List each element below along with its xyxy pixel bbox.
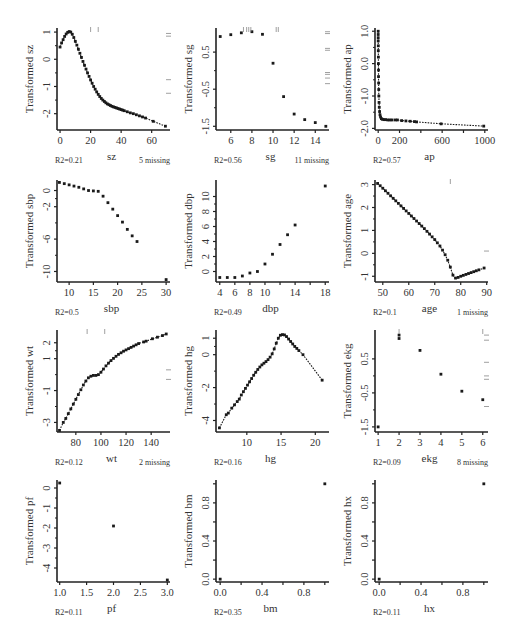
x-tick-label: 80 bbox=[455, 287, 466, 298]
data-point bbox=[166, 579, 169, 582]
data-point bbox=[249, 272, 252, 275]
y-tick-label: -1 bbox=[41, 504, 52, 513]
x-tick-label: 140 bbox=[143, 437, 159, 448]
y-tick-label: 10 bbox=[200, 191, 211, 202]
x-tick-label: 4 bbox=[438, 437, 444, 448]
data-point bbox=[58, 482, 61, 485]
x-tick-label: 1.5 bbox=[80, 587, 93, 598]
y-axis-label: Transformed dbp bbox=[182, 193, 194, 269]
data-point bbox=[294, 224, 297, 227]
x-tick-label: 600 bbox=[434, 135, 450, 146]
y-tick-label: -1.5 bbox=[359, 419, 370, 436]
panel-sg: 68101214-1.5-0.50.5Transformed sgsgR2=0.… bbox=[182, 27, 330, 165]
data-point bbox=[323, 482, 326, 485]
x-tick-label: 4 bbox=[217, 287, 223, 298]
data-point bbox=[482, 482, 485, 485]
panel-pf: 1.01.52.02.53.0-4-3-2-10Transformed pfpf… bbox=[23, 480, 174, 617]
x-tick-label: 2 bbox=[396, 437, 401, 448]
y-tick-label: 1 bbox=[359, 228, 370, 233]
data-point bbox=[121, 221, 124, 224]
data-point bbox=[102, 195, 105, 198]
y-tick-label: 1 bbox=[200, 336, 211, 341]
x-tick-label: 90 bbox=[481, 287, 492, 298]
data-point bbox=[112, 525, 115, 528]
y-tick-label: 1.0 bbox=[359, 25, 370, 38]
y-tick-label: -2 bbox=[200, 383, 211, 392]
x-tick-label: 10 bbox=[268, 135, 279, 146]
x-tick-label: 0.0 bbox=[214, 587, 227, 598]
x-tick-label: 14 bbox=[290, 287, 301, 298]
data-point bbox=[126, 228, 129, 231]
r2-annotation: R2=0.11 bbox=[55, 608, 83, 617]
r2-annotation: R2=0.12 bbox=[55, 458, 83, 467]
y-axis-label: Transformed bm bbox=[182, 494, 194, 568]
x-tick-label: 30 bbox=[161, 287, 172, 298]
x-tick-label: 0.4 bbox=[255, 587, 269, 598]
panel-dbp: 4681014180246810Transformed dbpdbpR2=0.4… bbox=[182, 180, 330, 317]
data-point bbox=[240, 31, 243, 34]
panel-wt: 80100120140-3-112Transformed wtwtR2=0.12… bbox=[23, 329, 171, 467]
data-point bbox=[419, 349, 422, 352]
r2-annotation: R2=0.09 bbox=[373, 458, 401, 467]
x-tick-label: 6 bbox=[228, 135, 233, 146]
y-axis-label: Transformed hx bbox=[341, 495, 353, 566]
y-tick-label: 0.8 bbox=[359, 496, 370, 509]
x-tick-label: 12 bbox=[289, 135, 300, 146]
r2-annotation: R2=0.11 bbox=[373, 608, 401, 617]
y-axis-label: Transformed sg bbox=[182, 44, 194, 113]
y-tick-label: 0 bbox=[41, 57, 52, 62]
x-tick-label: 70 bbox=[429, 287, 440, 298]
x-tick-label: 0.4 bbox=[414, 587, 428, 598]
panel-age: 5060708090-10123Transformed ageageR2=0.1… bbox=[341, 179, 492, 317]
x-axis-label: dbp bbox=[262, 302, 279, 314]
y-tick-label: -1 bbox=[359, 272, 370, 281]
missing-count: 11 missing bbox=[294, 156, 329, 165]
y-tick-label: 0.4 bbox=[359, 534, 370, 548]
data-point bbox=[116, 214, 119, 217]
y-tick-label: 0 bbox=[41, 188, 52, 193]
data-point bbox=[131, 234, 134, 237]
y-tick-label: -10 bbox=[41, 264, 52, 278]
r2-annotation: R2=0.57 bbox=[373, 156, 401, 165]
data-point bbox=[241, 275, 244, 278]
x-axis-label: pf bbox=[107, 602, 117, 614]
missing-count: 1 missing bbox=[457, 308, 488, 317]
data-point bbox=[256, 270, 259, 273]
x-tick-label: 80 bbox=[71, 437, 82, 448]
x-tick-label: 0 bbox=[376, 135, 381, 146]
data-point bbox=[440, 373, 443, 376]
r2-annotation: R2=0.21 bbox=[55, 156, 83, 165]
x-tick-label: 8 bbox=[247, 287, 252, 298]
panel-ekg: 123456-1.5-0.50.5Transformed ekgekgR2=0.… bbox=[341, 329, 489, 467]
data-point bbox=[165, 333, 168, 336]
data-point bbox=[233, 276, 236, 279]
x-tick-label: 8 bbox=[249, 135, 254, 146]
y-tick-label: 1 bbox=[41, 29, 52, 34]
y-tick-label: 0 bbox=[200, 352, 211, 357]
x-tick-label: 120 bbox=[118, 437, 134, 448]
data-point bbox=[378, 578, 381, 581]
x-tick-label: 40 bbox=[116, 135, 127, 146]
x-axis-label: sg bbox=[266, 150, 276, 162]
x-tick-label: 10 bbox=[64, 287, 75, 298]
x-axis-label: age bbox=[422, 302, 437, 314]
data-point bbox=[165, 278, 168, 281]
y-tick-label: -2.0 bbox=[359, 120, 370, 137]
panel-sbp: 1015202530-10-6-20Transformed sbpsbpR2=0… bbox=[23, 180, 171, 317]
data-point bbox=[279, 243, 282, 246]
y-tick-label: -1 bbox=[41, 386, 52, 395]
y-tick-label: -6 bbox=[41, 235, 52, 244]
data-point bbox=[219, 35, 222, 38]
data-point bbox=[68, 183, 71, 186]
data-point bbox=[293, 113, 296, 116]
x-tick-label: 60 bbox=[404, 287, 415, 298]
data-point bbox=[261, 33, 264, 36]
data-point bbox=[271, 253, 274, 256]
r2-annotation: R2=0.1 bbox=[373, 308, 397, 317]
data-point bbox=[324, 185, 327, 188]
y-tick-label: 1 bbox=[41, 356, 52, 361]
missing-count: 8 missing bbox=[457, 458, 488, 467]
data-point bbox=[482, 125, 485, 128]
r2-annotation: R2=0.49 bbox=[214, 308, 242, 317]
x-axis-label: bm bbox=[263, 602, 278, 614]
